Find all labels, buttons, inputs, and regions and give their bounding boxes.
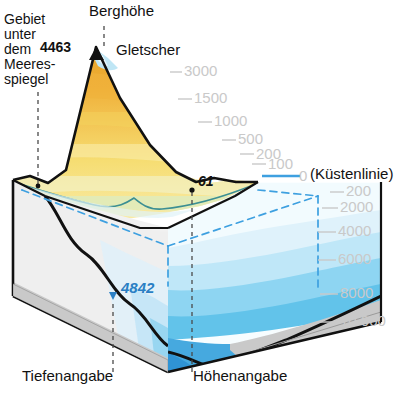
label-glacier: Gletscher: [116, 42, 180, 58]
label-peak-value: 4463: [40, 40, 71, 55]
scale-below-10000: 10 000: [340, 313, 386, 329]
scale-above-1000: 1000: [214, 113, 247, 129]
scale-below-4000: 4000: [338, 223, 371, 239]
height-spot-dot: [189, 187, 194, 192]
scale-below-6000: 6000: [338, 251, 371, 267]
scale-above-3000: 3000: [184, 63, 217, 79]
scale-below-2000: 2000: [340, 199, 373, 215]
caption-depth: Tiefenangabe: [22, 368, 113, 384]
scale-above-100: 100: [268, 156, 293, 172]
caption-height: Höhenangabe: [193, 368, 287, 384]
block-diagram: Gebiet unter dem Meeres- spiegel Berghöh…: [0, 0, 401, 401]
label-mountain-height: Berghöhe: [89, 3, 154, 19]
label-height-spot-value: 61: [198, 174, 214, 189]
label-depth-value: 4842: [121, 280, 154, 296]
below-sea-level-dot: [36, 184, 41, 189]
label-coastline: (Küstenlinie): [310, 166, 393, 182]
scale-above-1500: 1500: [194, 90, 227, 106]
scale-above-0: 0: [299, 168, 307, 184]
scale-below-8000: 8000: [340, 285, 373, 301]
scale-below-200: 200: [346, 183, 371, 199]
